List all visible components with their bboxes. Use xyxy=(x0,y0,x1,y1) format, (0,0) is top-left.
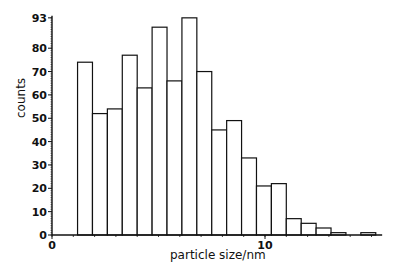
histogram-bar xyxy=(197,72,212,235)
histogram-bar xyxy=(78,62,93,235)
histogram-bar xyxy=(107,109,122,235)
y-axis-label: counts xyxy=(14,78,28,118)
histogram-bar xyxy=(227,121,242,235)
histogram-bar xyxy=(137,88,152,235)
histogram-bar xyxy=(316,228,331,235)
histogram-bar xyxy=(212,130,227,235)
y-tick-label: 60 xyxy=(32,89,48,102)
histogram-bar xyxy=(152,27,167,235)
x-tick-label: 0 xyxy=(48,239,56,252)
y-tick-label: 40 xyxy=(32,136,48,149)
y-tick-label: 0 xyxy=(39,229,47,242)
histogram-bar xyxy=(122,55,137,235)
y-tick-label: 70 xyxy=(32,66,48,79)
y-tick-label: 20 xyxy=(32,182,48,195)
histogram-bar xyxy=(92,114,107,235)
histogram-bar xyxy=(182,18,197,235)
histogram-bar xyxy=(256,186,271,235)
y-tick-label: 30 xyxy=(32,159,48,172)
x-axis-label: particle size/nm xyxy=(170,248,266,262)
histogram-bar xyxy=(286,219,301,235)
y-tick-label: 10 xyxy=(32,206,48,219)
y-tick-label: 80 xyxy=(32,42,48,55)
y-tick-label: 93 xyxy=(32,12,47,25)
histogram-bar xyxy=(301,223,316,235)
histogram-bar xyxy=(242,158,257,235)
histogram-chart: 0102030405060708093010 xyxy=(0,0,403,277)
histogram-bar xyxy=(271,184,286,235)
y-tick-label: 50 xyxy=(32,112,48,125)
histogram-bar xyxy=(167,81,182,235)
